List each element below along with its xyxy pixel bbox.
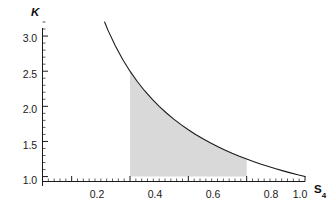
x-tick-label-3: 0.6 bbox=[199, 188, 227, 200]
y-tick-label-3: 2.0 bbox=[13, 103, 37, 115]
y-tick-label-5: 3.0 bbox=[13, 32, 37, 44]
x-axis-label-subscript: 4 bbox=[322, 191, 326, 200]
x-tick-label-1: 0.2 bbox=[83, 188, 111, 200]
x-axis-label: S4 bbox=[314, 183, 326, 198]
y-tick-label-1: 1.0 bbox=[13, 174, 37, 186]
x-axis-label-base: S bbox=[314, 183, 322, 195]
x-tick-label-2: 0.4 bbox=[141, 188, 169, 200]
y-axis-label: K bbox=[31, 6, 39, 18]
y-axis-ticks bbox=[43, 22, 49, 177]
y-tick-label-2: 1.5 bbox=[13, 139, 37, 151]
y-tick-label-4: 2.5 bbox=[13, 68, 37, 80]
x-tick-label-4: 0.8 bbox=[257, 188, 285, 200]
chart-figure: 1.0 1.5 2.0 2.5 3.0 0.2 0.4 0.6 0.8 1.0 … bbox=[0, 0, 336, 224]
x-axis-ticks bbox=[43, 176, 306, 182]
shaded-region bbox=[130, 71, 247, 176]
x-tick-label-5: 1.0 bbox=[286, 188, 314, 200]
